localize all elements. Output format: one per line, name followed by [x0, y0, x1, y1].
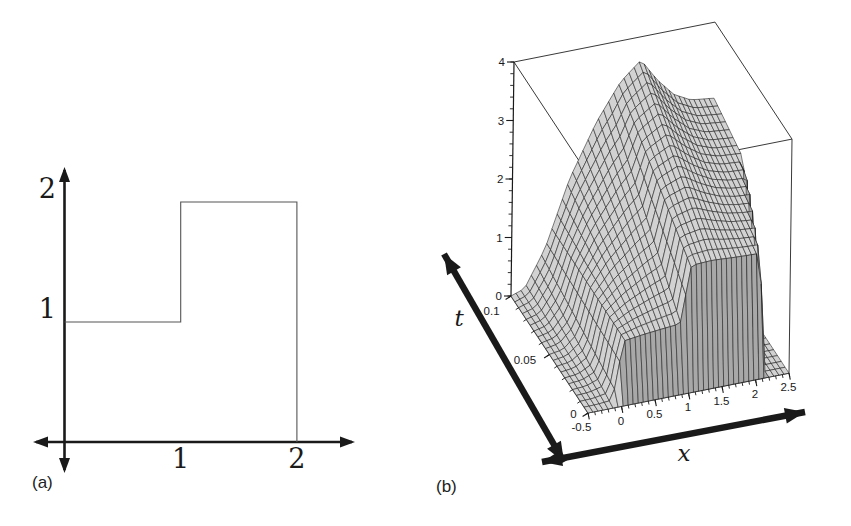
x-minor-tick — [615, 408, 616, 412]
x-minor-tick — [762, 378, 763, 382]
t-tick-label: 0 — [570, 408, 576, 420]
t-minor-tick — [523, 319, 526, 321]
x-tick-label: 0 — [618, 415, 624, 427]
t-major-tick — [583, 413, 588, 417]
figure-container: 1212 01234-0.500.511.522.500.050.1tx (a)… — [0, 0, 851, 526]
x-major-tick — [689, 393, 690, 399]
t-minor-tick — [570, 390, 573, 392]
y-tick-label: 1 — [39, 293, 56, 324]
x-tick-label: 1 — [172, 443, 189, 474]
caption-a: (a) — [32, 473, 53, 493]
y-axis-up-arrowhead — [59, 167, 70, 182]
x-minor-tick — [695, 392, 696, 396]
figure-canvas: 1212 01234-0.500.511.522.500.050.1tx — [0, 0, 851, 526]
x-minor-tick — [642, 402, 643, 406]
x-axis-arrow — [542, 412, 805, 462]
t-tick-label: 0.05 — [514, 354, 536, 366]
x-minor-tick — [749, 381, 750, 385]
x-major-tick — [789, 373, 790, 379]
x-minor-tick — [776, 376, 777, 380]
x-minor-tick — [742, 382, 743, 386]
x-minor-tick — [668, 397, 669, 401]
x-axis-left-arrowhead — [33, 437, 48, 448]
x-major-tick — [622, 406, 623, 412]
x-tick-label: 1 — [685, 401, 691, 413]
panel-a-step-plot: 1212 — [33, 167, 355, 474]
x-minor-tick — [782, 374, 783, 378]
t-minor-tick — [562, 378, 565, 380]
y-tick-label: 2 — [39, 173, 56, 204]
x-major-tick — [756, 380, 757, 386]
x-minor-tick — [702, 390, 703, 394]
x-minor-tick — [709, 389, 710, 393]
x-major-tick — [588, 413, 589, 419]
x-tick-label: 2 — [288, 443, 305, 474]
t-minor-tick — [554, 366, 557, 368]
caption-b: (b) — [436, 477, 457, 497]
t-minor-tick — [516, 308, 519, 310]
x-minor-tick — [628, 405, 629, 409]
t-major-tick — [544, 355, 549, 359]
z-tick-label: 4 — [499, 56, 506, 68]
t-axis-arrow-head — [444, 254, 461, 275]
x-minor-tick — [648, 401, 649, 405]
y-axis-down-arrowhead — [59, 458, 70, 473]
x-minor-tick — [769, 377, 770, 381]
x-tick-label: 1.5 — [713, 395, 729, 407]
x-major-tick — [655, 400, 656, 406]
x-axis-label: x — [678, 440, 691, 466]
z-tick-label: 0 — [496, 290, 502, 302]
x-major-tick — [722, 386, 723, 392]
x-minor-tick — [729, 385, 730, 389]
x-tick-label: 2.5 — [780, 381, 796, 393]
x-minor-tick — [601, 410, 602, 414]
x-tick-label: -0.5 — [572, 421, 592, 433]
x-minor-tick — [595, 412, 596, 416]
z-tick-label: 3 — [498, 115, 504, 127]
t-minor-tick — [577, 401, 580, 403]
box-front-right-edge — [789, 139, 792, 373]
x-minor-tick — [662, 398, 663, 402]
x-tick-label: 0.5 — [646, 408, 662, 420]
panel-b-surface-plot: 01234-0.500.511.522.500.050.1tx — [444, 22, 805, 466]
x-minor-tick — [608, 409, 609, 413]
z-tick-label: 2 — [497, 173, 503, 185]
x-minor-tick — [635, 404, 636, 408]
x-minor-tick — [715, 388, 716, 392]
x-minor-tick — [735, 384, 736, 388]
step-curve — [65, 202, 297, 442]
t-minor-tick — [531, 331, 534, 333]
x-minor-tick — [675, 396, 676, 400]
x-tick-label: 2 — [752, 388, 758, 400]
t-tick-label: 0.1 — [484, 305, 500, 317]
t-axis-label: t — [454, 305, 464, 331]
x-axis-right-arrowhead — [340, 437, 355, 448]
t-minor-tick — [539, 343, 542, 345]
x-minor-tick — [682, 394, 683, 398]
z-tick-label: 1 — [496, 232, 502, 244]
